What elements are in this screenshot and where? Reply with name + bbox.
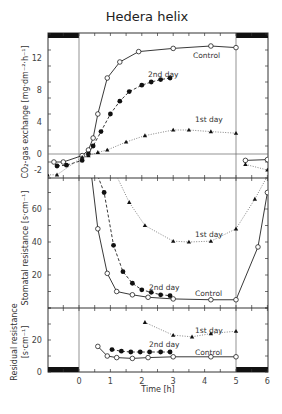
svg-text:5: 5 — [233, 376, 238, 386]
svg-text:6: 6 — [265, 376, 270, 386]
svg-text:20: 20 — [32, 270, 42, 280]
annot-bot-day1: 1st day — [195, 326, 223, 335]
annot-mid-day2: 2nd day — [149, 283, 180, 292]
svg-text:20: 20 — [32, 335, 42, 345]
axes: 0123456-204812204060020 — [32, 33, 270, 386]
x-axis-label: Time [h] — [140, 385, 174, 394]
plot-frame — [48, 33, 268, 372]
annot-mid-day1: 1st day — [195, 230, 223, 239]
annot-mid-control: Control — [195, 289, 222, 298]
svg-text:60: 60 — [32, 204, 42, 214]
y-axis-label-bottom-unit: [s·cm⁻¹] — [21, 326, 30, 359]
svg-text:1: 1 — [108, 376, 113, 386]
annot-top-day1: 1st day — [195, 115, 223, 124]
chart: Hedera helix 0123456-204812204060020 Tim… — [0, 0, 282, 414]
svg-text:0: 0 — [37, 149, 42, 159]
annot-bot-day2: 2nd day — [149, 340, 180, 349]
annot-top-day2: 2nd day — [148, 70, 179, 79]
svg-text:-2: -2 — [34, 165, 42, 175]
annotations: Control 2nd day 1st day 1st day 2nd day … — [148, 51, 223, 357]
svg-text:0: 0 — [37, 367, 42, 377]
annot-top-control: Control — [193, 51, 220, 60]
y-axis-label-middle: Stomatal resistance [s·cm⁻¹] — [21, 191, 30, 306]
svg-text:12: 12 — [32, 53, 42, 63]
y-axis-label-top: CO₂-gas exchange [mg·dm⁻²·h⁻¹] — [21, 45, 30, 178]
annot-bot-control: Control — [195, 348, 222, 357]
svg-text:0: 0 — [76, 376, 81, 386]
y-axis-label-bottom: Residual resistance — [10, 303, 19, 380]
svg-text:8: 8 — [37, 85, 42, 95]
svg-text:4: 4 — [202, 376, 207, 386]
chart-title: Hedera helix — [106, 9, 189, 24]
svg-text:4: 4 — [37, 117, 42, 127]
svg-text:40: 40 — [32, 237, 42, 247]
